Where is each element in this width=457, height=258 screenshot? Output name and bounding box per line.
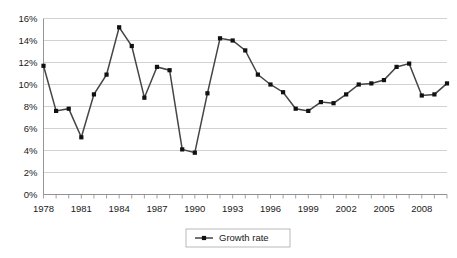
data-point-marker — [306, 109, 310, 113]
legend-marker-swatch — [202, 236, 206, 240]
data-point-marker — [445, 81, 449, 85]
data-point-marker — [41, 64, 45, 68]
data-point-marker — [243, 48, 247, 52]
y-tick-label-0%: 0% — [24, 189, 38, 200]
y-tick-label-14%: 14% — [18, 35, 38, 46]
data-point-marker — [394, 65, 398, 69]
data-point-marker — [432, 92, 436, 96]
data-point-marker — [79, 135, 83, 139]
data-point-marker — [420, 93, 424, 97]
chart-legend[interactable]: Growth rate — [186, 229, 290, 247]
x-tick-label-1981: 1981 — [71, 203, 92, 214]
data-point-marker — [92, 92, 96, 96]
y-tick-label-4%: 4% — [24, 145, 38, 156]
data-point-marker — [180, 147, 184, 151]
data-point-marker — [331, 101, 335, 105]
x-tickmarks-group — [44, 195, 448, 199]
data-point-marker — [382, 78, 386, 82]
data-point-marker — [357, 82, 361, 86]
gridlines-group — [44, 19, 448, 195]
data-point-marker — [167, 68, 171, 72]
y-tick-label-8%: 8% — [24, 101, 38, 112]
data-point-marker — [407, 62, 411, 66]
x-tick-label-1993: 1993 — [222, 203, 243, 214]
x-axis-tick-labels: 1978198119841987199019931996199920022005… — [33, 203, 432, 214]
data-point-marker — [319, 100, 323, 104]
data-point-marker — [281, 90, 285, 94]
x-tick-label-1978: 1978 — [33, 203, 54, 214]
data-point-marker — [155, 65, 159, 69]
data-point-marker — [294, 107, 298, 111]
legend-label-growth-rate: Growth rate — [219, 232, 269, 243]
data-point-marker — [344, 92, 348, 96]
data-point-marker — [193, 151, 197, 155]
x-tick-label-1990: 1990 — [184, 203, 205, 214]
x-tick-label-1987: 1987 — [146, 203, 167, 214]
data-point-marker — [231, 38, 235, 42]
y-axis-tick-labels: 0%2%4%6%8%10%12%14%16% — [18, 13, 38, 200]
x-tick-label-2008: 2008 — [411, 203, 432, 214]
y-tick-label-2%: 2% — [24, 167, 38, 178]
data-point-marker — [218, 36, 222, 40]
chart-canvas: 0%2%4%6%8%10%12%14%16% 19781981198419871… — [0, 0, 457, 258]
x-tick-label-2002: 2002 — [336, 203, 357, 214]
data-point-marker — [142, 96, 146, 100]
data-point-marker — [268, 82, 272, 86]
data-point-marker — [104, 73, 108, 77]
growth-rate-line-chart: 0%2%4%6%8%10%12%14%16% 19781981198419871… — [0, 0, 457, 258]
data-series-group — [41, 25, 449, 155]
data-point-marker — [130, 44, 134, 48]
x-tick-label-2005: 2005 — [373, 203, 394, 214]
y-tick-label-6%: 6% — [24, 123, 38, 134]
data-point-marker — [369, 81, 373, 85]
series-line-growth-rate — [44, 27, 448, 152]
x-tick-label-1984: 1984 — [109, 203, 130, 214]
y-tick-label-12%: 12% — [18, 57, 38, 68]
y-tick-label-16%: 16% — [18, 13, 38, 24]
y-tick-label-10%: 10% — [18, 79, 38, 90]
data-point-marker — [205, 91, 209, 95]
data-point-marker — [54, 109, 58, 113]
data-point-marker — [67, 107, 71, 111]
x-tick-label-1996: 1996 — [260, 203, 281, 214]
data-point-marker — [117, 25, 121, 29]
x-tick-label-1999: 1999 — [298, 203, 319, 214]
data-point-marker — [256, 73, 260, 77]
